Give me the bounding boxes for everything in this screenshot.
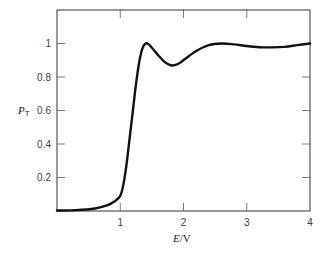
plot-frame <box>57 10 310 211</box>
x-tick-label: 3 <box>244 217 250 228</box>
x-tick-label: 1 <box>117 217 123 228</box>
transmission-probability-chart: 1234 0.20.40.60.81 PT E/V <box>0 0 325 255</box>
y-tick-label: 0.6 <box>37 105 51 116</box>
data-series <box>57 43 310 210</box>
y-tick-label: 0.4 <box>37 139 51 150</box>
x-axis-label: E/V <box>172 232 191 244</box>
x-axis-ticks: 1234 <box>117 203 313 228</box>
y-tick-label: 1 <box>45 38 51 49</box>
y-tick-label: 0.2 <box>37 172 51 183</box>
x-tick-label: 4 <box>307 217 313 228</box>
y-axis-ticks: 0.20.40.60.81 <box>37 38 65 183</box>
x-axis-top-ticks <box>120 10 247 18</box>
y-axis-right-ticks <box>302 44 310 178</box>
transmission-curve <box>57 43 310 210</box>
x-tick-label: 2 <box>181 217 187 228</box>
y-tick-label: 0.8 <box>37 72 51 83</box>
y-axis-label: PT <box>17 104 30 118</box>
